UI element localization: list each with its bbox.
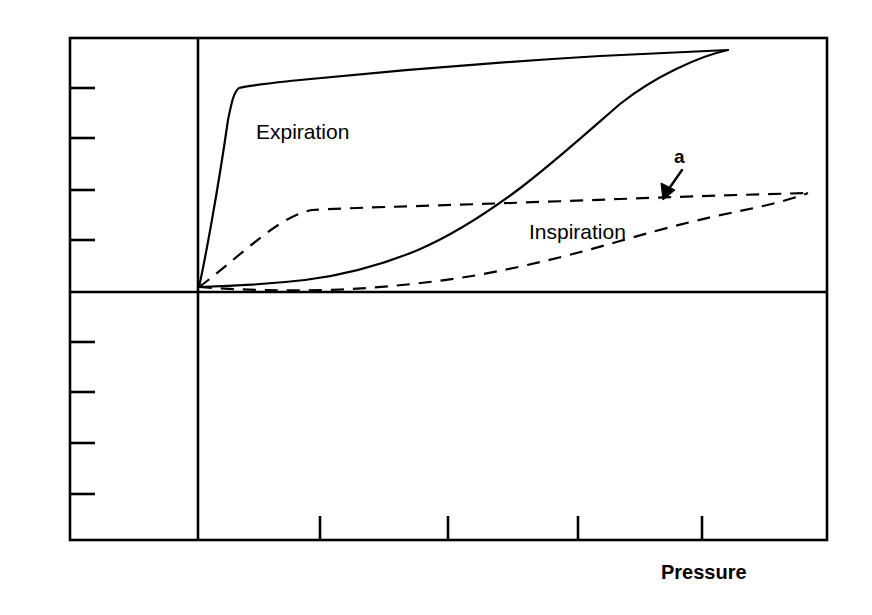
- curve-expiration-dashed: [199, 193, 808, 287]
- arrow-to-curve-a: [661, 170, 682, 200]
- pressure-volume-figure: Volume Pressure Expiration Inspiration a: [0, 0, 872, 615]
- curve-expiration-solid: [199, 50, 728, 287]
- curve-inspiration-dashed: [199, 193, 808, 290]
- x-axis-title: Pressure: [661, 561, 747, 584]
- plot-frame: [70, 38, 827, 540]
- x-axis-ticks: [320, 516, 702, 540]
- plot-canvas: [0, 0, 872, 615]
- curve-inspiration-solid-limb: [199, 50, 728, 287]
- label-curve-a: a: [674, 146, 685, 168]
- curve-inspiration-solid: [199, 50, 728, 366]
- label-expiration: Expiration: [256, 120, 349, 144]
- y-axis-title: Volume: [18, 73, 72, 183]
- label-inspiration: Inspiration: [529, 220, 626, 244]
